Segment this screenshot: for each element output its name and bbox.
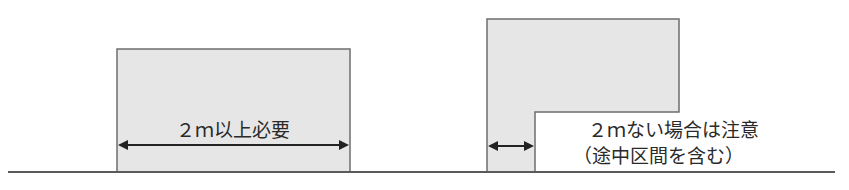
access-width-diagram: ２ｍ以上必要 ２ｍない場合は注意 （途中区間を含む）: [0, 0, 849, 190]
caution-label-line2: （途中区間を含む）: [573, 145, 744, 167]
caution-label-line1: ２ｍない場合は注意: [588, 119, 759, 141]
sufficient-width-block: [117, 49, 350, 172]
required-width-label: ２ｍ以上必要: [176, 119, 290, 141]
